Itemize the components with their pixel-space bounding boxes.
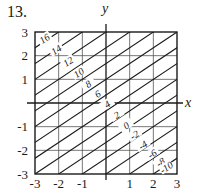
y-axis-label: y bbox=[100, 1, 109, 16]
level-label: 14 bbox=[49, 42, 63, 57]
contour-plot: 1614121086420-2-4-6-8-10 -3-2-1123321-1-… bbox=[0, 0, 198, 195]
level-label: 12 bbox=[61, 54, 75, 69]
x-tick-label: 1 bbox=[126, 176, 133, 191]
y-tick-label: -2 bbox=[17, 143, 28, 158]
x-tick-label: -1 bbox=[77, 176, 88, 191]
y-tick-label: 1 bbox=[22, 72, 29, 87]
level-label: 16 bbox=[37, 31, 51, 46]
x-tick-label: 3 bbox=[174, 176, 181, 191]
contour-line bbox=[11, 32, 198, 158]
y-tick-label: -1 bbox=[17, 119, 28, 134]
x-tick-label: -2 bbox=[53, 176, 64, 191]
x-tick-label: -3 bbox=[30, 176, 41, 191]
x-axis-label: x bbox=[184, 95, 192, 110]
y-tick-label: -3 bbox=[17, 167, 28, 182]
y-tick-label: 2 bbox=[22, 48, 29, 63]
x-tick-label: 2 bbox=[150, 176, 157, 191]
y-tick-label: 3 bbox=[22, 25, 29, 40]
contour-line bbox=[11, 48, 198, 174]
